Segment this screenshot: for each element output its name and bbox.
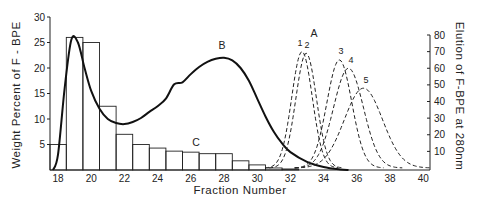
right-tick-label: 20 — [434, 129, 446, 140]
x-tick-label: 34 — [318, 173, 330, 184]
left-tick-label: 5 — [39, 139, 45, 150]
histogram-bar — [216, 154, 233, 170]
x-axis-title: Fraction Number — [193, 184, 286, 196]
label-b: B — [218, 39, 225, 51]
x-tick-label: 22 — [119, 173, 131, 184]
curve-a-2 — [269, 53, 342, 168]
label-a: A — [310, 27, 317, 39]
x-tick-label: 18 — [52, 173, 64, 184]
x-tick-label: 32 — [285, 173, 297, 184]
left-axis-title: Weight Percent of F - BPE — [10, 21, 22, 168]
right-tick-label: 50 — [434, 79, 446, 90]
left-tick-label: 10 — [34, 114, 46, 125]
x-tick-label: 20 — [86, 173, 98, 184]
left-tick-label: 25 — [34, 37, 46, 48]
right-tick-label: 10 — [434, 146, 446, 157]
peak-label-4: 4 — [348, 55, 353, 65]
histogram-bar — [266, 168, 283, 170]
right-tick-label: 70 — [434, 46, 446, 57]
peak-label-2: 2 — [304, 40, 309, 50]
elution-chart: 5101520253010203040506070801820222426283… — [0, 0, 477, 204]
histogram-bar — [116, 134, 133, 170]
histogram-bar — [199, 154, 216, 170]
right-tick-label: 40 — [434, 96, 446, 107]
x-tick-label: 26 — [185, 173, 197, 184]
x-tick-label: 24 — [152, 173, 164, 184]
right-tick-label: 60 — [434, 63, 446, 74]
label-c: C — [192, 136, 200, 148]
x-tick-label: 38 — [384, 173, 396, 184]
annotation-labels: BCA12345 — [192, 27, 368, 148]
peak-label-3: 3 — [338, 46, 343, 56]
histogram-bar — [232, 161, 249, 170]
left-tick-label: 30 — [34, 12, 46, 23]
curves-a — [265, 52, 432, 168]
histogram-bar — [133, 145, 150, 171]
left-tick-label: 15 — [34, 88, 46, 99]
histogram-bar — [100, 106, 117, 170]
histogram-bar — [166, 151, 183, 170]
curve-b-line — [53, 36, 348, 170]
curve-a-5 — [295, 88, 432, 168]
x-tick-label: 40 — [418, 173, 430, 184]
curve-a-1 — [265, 52, 338, 168]
right-tick-label: 80 — [434, 30, 446, 41]
right-tick-label: 30 — [434, 113, 446, 124]
curve-b — [53, 36, 348, 170]
left-tick-label: 20 — [34, 63, 46, 74]
axes: 5101520253010203040506070801820222426283… — [10, 12, 466, 197]
histogram-bar — [183, 152, 200, 170]
peak-label-5: 5 — [363, 75, 368, 85]
histogram-bar — [149, 148, 166, 170]
right-axis-title: Elution of F-BPE at 280nm — [454, 22, 466, 171]
x-tick-label: 30 — [252, 173, 264, 184]
curve-a-3 — [295, 60, 384, 168]
histogram-bar — [249, 165, 266, 170]
x-tick-label: 28 — [218, 173, 230, 184]
x-tick-label: 36 — [351, 173, 363, 184]
histogram-bar — [282, 169, 299, 170]
peak-label-1: 1 — [297, 38, 302, 48]
histogram-c — [50, 37, 299, 170]
